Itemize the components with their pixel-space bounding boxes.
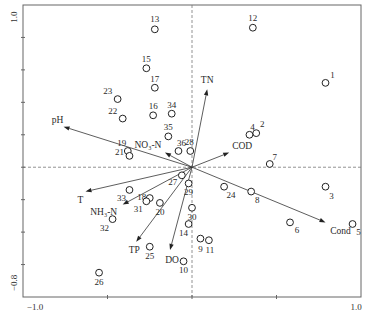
- site-marker-20: [156, 200, 163, 207]
- site-marker-15: [143, 65, 150, 72]
- site-marker-5: [349, 221, 356, 228]
- site-marker-27: [178, 172, 185, 179]
- site-label: 23: [103, 86, 113, 96]
- site-marker-16: [150, 112, 157, 119]
- variable-label: DO: [165, 255, 179, 265]
- site-marker-8: [248, 188, 255, 195]
- site-marker-33: [126, 187, 133, 194]
- site-label: 26: [95, 277, 105, 287]
- site-label: 20: [155, 207, 165, 217]
- site-label: 31: [134, 204, 143, 214]
- site-marker-6: [287, 219, 294, 226]
- site-label: 9: [198, 244, 203, 254]
- variable-arrow-COD: [192, 155, 224, 167]
- site-label: 29: [184, 187, 194, 197]
- site-marker-30: [189, 204, 196, 211]
- variable-arrow-pH: [69, 128, 192, 167]
- site-marker-36: [175, 148, 182, 155]
- site-marker-35: [165, 133, 172, 140]
- site-marker-34: [168, 110, 175, 117]
- site-label: 17: [150, 74, 160, 84]
- site-marker-11: [206, 237, 213, 244]
- site-marker-12: [249, 24, 256, 31]
- plot-canvas: −1.01.01.0−0.8TNCODCondpHNO₃-NTNH₃-NTPDO…: [0, 0, 368, 321]
- site-label: 25: [145, 251, 155, 261]
- site-label: 11: [206, 245, 215, 255]
- variable-arrow-TN: [192, 95, 206, 167]
- site-label: 14: [179, 228, 189, 238]
- site-label: 12: [248, 13, 257, 23]
- site-label: 13: [150, 14, 160, 24]
- site-label: 27: [168, 177, 178, 187]
- site-label: 2: [260, 119, 265, 129]
- variable-label: NH₃-N: [90, 207, 117, 217]
- y-tick-label: 1.0: [9, 11, 19, 23]
- site-marker-3: [322, 183, 329, 190]
- site-label: 6: [295, 225, 300, 235]
- site-label: 24: [227, 190, 237, 200]
- site-label: 34: [167, 100, 177, 110]
- site-label: 22: [108, 106, 117, 116]
- variable-label: Cond: [330, 226, 351, 236]
- ordination-biplot: −1.01.01.0−0.8TNCODCondpHNO₃-NTNH₃-NTPDO…: [0, 0, 368, 321]
- site-marker-29: [185, 180, 192, 187]
- site-marker-32: [109, 216, 116, 223]
- arrowhead-icon: [165, 153, 171, 158]
- arrowhead-icon: [136, 236, 141, 242]
- site-label: 7: [272, 152, 277, 162]
- site-marker-23: [114, 96, 121, 103]
- site-marker-26: [96, 269, 103, 276]
- site-label: 15: [142, 54, 152, 64]
- arrowhead-icon: [204, 89, 208, 95]
- site-label: 35: [164, 122, 174, 132]
- site-label: 21: [115, 147, 124, 157]
- site-marker-25: [146, 243, 153, 250]
- variable-label: TN: [201, 75, 214, 85]
- arrowhead-icon: [319, 218, 325, 222]
- site-label: 33: [117, 193, 127, 203]
- site-marker-31: [143, 198, 150, 205]
- y-tick-label: −0.8: [9, 274, 19, 291]
- site-marker-1: [322, 79, 329, 86]
- site-label: 4: [250, 122, 255, 132]
- x-tick-label: 1.0: [350, 302, 362, 312]
- variable-label: pH: [52, 115, 64, 125]
- site-marker-22: [119, 115, 126, 122]
- site-marker-21: [126, 152, 133, 159]
- site-label: 32: [100, 223, 109, 233]
- site-label: 10: [179, 265, 189, 275]
- site-marker-13: [151, 26, 158, 33]
- arrowhead-icon: [64, 126, 70, 130]
- site-marker-4: [246, 131, 253, 138]
- variable-label: NO₃-N: [134, 140, 161, 150]
- arrowhead-icon: [223, 153, 229, 157]
- site-marker-17: [151, 84, 158, 91]
- site-label: 16: [149, 101, 159, 111]
- site-label: 36: [177, 138, 187, 148]
- site-label: 3: [329, 191, 334, 201]
- x-tick-label: −1.0: [27, 302, 44, 312]
- site-label: 8: [255, 195, 260, 205]
- site-marker-10: [180, 258, 187, 265]
- site-marker-9: [197, 235, 204, 242]
- site-label: 30: [188, 212, 198, 222]
- arrowhead-icon: [86, 188, 92, 192]
- variable-label: COD: [232, 141, 252, 151]
- site-label: 5: [356, 227, 361, 237]
- site-label: 1: [330, 70, 335, 80]
- site-label: 28: [185, 137, 195, 147]
- variable-label: TP: [129, 245, 140, 255]
- variable-label: T: [78, 195, 84, 205]
- site-marker-28: [187, 148, 194, 155]
- arrowhead-icon: [169, 244, 173, 250]
